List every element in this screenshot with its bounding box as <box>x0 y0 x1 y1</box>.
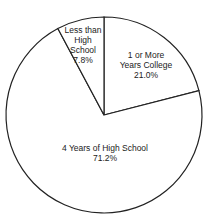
label-value: 7.8% <box>64 55 102 65</box>
label-text: 4 Years of High School <box>50 143 160 153</box>
label-high-school: 4 Years of High School 71.2% <box>50 143 160 163</box>
label-value: 71.2% <box>50 153 160 163</box>
pie-chart <box>0 0 208 223</box>
pie-slices <box>6 17 202 213</box>
label-college: 1 or More Years College 21.0% <box>110 50 182 80</box>
label-text: Less than <box>64 25 102 35</box>
label-text: School <box>64 45 102 55</box>
label-less-than-high-school: Less than High School 7.8% <box>64 25 102 65</box>
label-value: 21.0% <box>110 70 182 80</box>
label-text: Years College <box>110 60 182 70</box>
label-text: 1 or More <box>110 50 182 60</box>
label-text: High <box>64 35 102 45</box>
